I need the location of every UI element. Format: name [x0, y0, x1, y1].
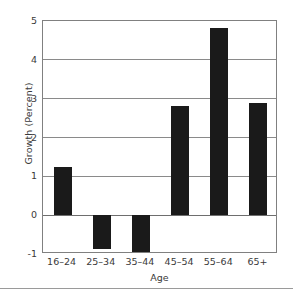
bar — [93, 215, 111, 249]
x-axis-tick-labels: 16–2425–3435–4445–5455–6465+ — [42, 256, 277, 270]
y-tick-label: -1 — [14, 248, 37, 259]
gridline-1 — [43, 176, 276, 177]
y-tick-label: 3 — [14, 92, 37, 103]
x-tick-label: 25–34 — [86, 256, 115, 267]
bar — [249, 103, 267, 216]
bar — [54, 167, 72, 216]
plot-area — [42, 20, 277, 253]
gridline-0 — [43, 215, 276, 216]
bottom-divider — [0, 288, 293, 289]
gridline-3 — [43, 98, 276, 99]
y-tick-label: 4 — [14, 53, 37, 64]
gridline-2 — [43, 137, 276, 138]
bar-chart-figure: Growth (Percent) 543210-1 16–2425–3435–4… — [0, 0, 293, 295]
bar — [171, 106, 189, 216]
bar — [132, 215, 150, 252]
x-axis-title: Age — [42, 272, 277, 283]
x-tick-label: 55–64 — [204, 256, 233, 267]
x-tick-label: 35–44 — [125, 256, 154, 267]
gridline-4 — [43, 59, 276, 60]
x-tick-label: 65+ — [247, 256, 267, 267]
y-tick-label: 1 — [14, 170, 37, 181]
x-tick-label: 45–54 — [165, 256, 194, 267]
bar — [210, 28, 228, 216]
y-tick-label: 2 — [14, 131, 37, 142]
x-tick-label: 16–24 — [47, 256, 76, 267]
y-tick-label: 5 — [14, 15, 37, 26]
y-tick-label: 0 — [14, 209, 37, 220]
